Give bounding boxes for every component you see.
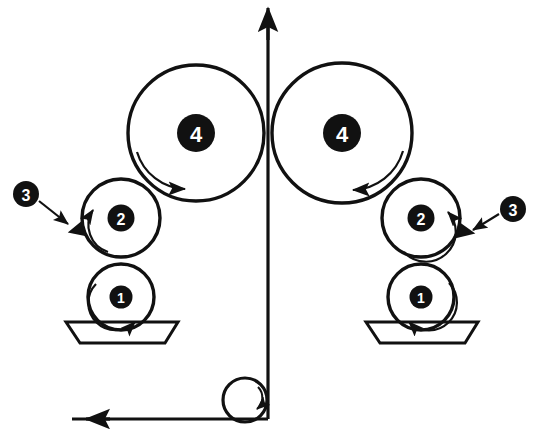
turning-roller [223, 378, 267, 422]
left-main-roller-label: 4 [190, 122, 203, 147]
right-main-roller: 4 [272, 63, 412, 203]
left-coating-pan-body [66, 322, 178, 343]
left-coating-pan [66, 322, 178, 343]
diagram-canvas: 4 4 2 2 1 [0, 0, 533, 438]
left-main-roller-rotation-arrow [137, 152, 185, 189]
right-applicator-roller-label: 1 [417, 290, 425, 306]
left-doctor-blade-tip [70, 222, 85, 235]
right-metering-roller-label: 2 [417, 211, 426, 228]
left-metering-roller-label: 2 [117, 211, 126, 228]
left-doctor-blade-label: 3 [22, 187, 31, 204]
right-metering-roller: 2 [382, 179, 460, 262]
right-main-roller-label: 4 [336, 122, 349, 147]
right-main-roller-rotation-arrow [353, 151, 403, 190]
turning-roller-body [223, 378, 267, 422]
right-applicator-roller: 1 [388, 264, 457, 330]
right-doctor-blade-tip [457, 223, 473, 237]
left-metering-roller: 2 [82, 179, 160, 257]
right-doctor-blade: 3 [457, 196, 526, 237]
left-applicator-roller: 1 [88, 264, 154, 330]
right-doctor-blade-label: 3 [509, 202, 518, 219]
left-main-roller: 4 [128, 65, 264, 201]
left-applicator-roller-label: 1 [117, 290, 125, 306]
right-coating-pan-body [366, 322, 478, 343]
left-doctor-blade-leader [39, 201, 68, 224]
right-coating-pan [366, 322, 478, 343]
turning-roller-rotation-arrow [257, 387, 262, 409]
left-doctor-blade: 3 [13, 181, 85, 235]
roller-coating-diagram: 4 4 2 2 1 [0, 0, 533, 438]
right-doctor-blade-leader [473, 214, 499, 230]
